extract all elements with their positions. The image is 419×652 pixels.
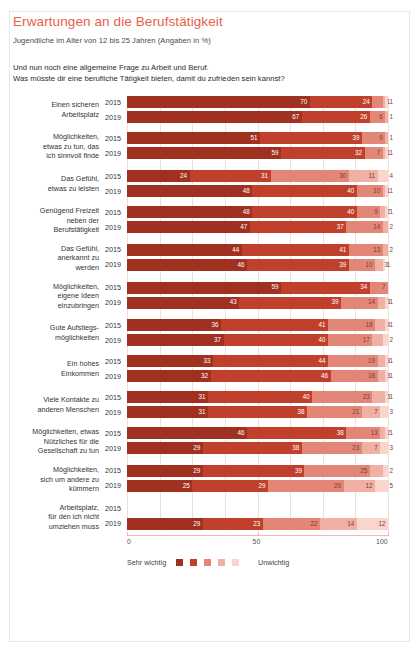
category-label-line: möglichkeiten	[13, 333, 99, 343]
bar-segment: 46	[127, 427, 247, 439]
bar-segment: 10	[357, 185, 383, 197]
bar-value-label: 30	[339, 173, 349, 179]
bar-segment: 31	[190, 170, 271, 182]
bar-value-label: 39	[295, 468, 305, 474]
bar-value-label: 40	[303, 394, 313, 400]
category-label: Möglichkeiten,eigene Ideeneinzubringen	[13, 282, 105, 311]
category-label-line: anerkannt zu	[13, 253, 99, 263]
bar-value-label: 39	[352, 135, 362, 141]
bar-segment: 40	[252, 185, 356, 197]
bar-segment: 33	[127, 355, 213, 367]
bar-row: 201536411841	[105, 319, 388, 331]
bar-segment: 40	[224, 334, 328, 346]
bar-value-label: 19	[368, 358, 378, 364]
bar-row: 201931382173	[105, 406, 388, 418]
series-year-label: 2015	[105, 172, 127, 181]
bar-rows: 201570244112019672661	[105, 96, 388, 123]
bar-value-label: 17	[363, 337, 373, 343]
category-label-line: Einkommen	[13, 369, 99, 379]
axis-tick-label: 100	[376, 538, 388, 545]
series-year-label: 2019	[105, 187, 127, 196]
stacked-bar: 252929125	[127, 480, 388, 492]
bar-row: 2019672661	[105, 111, 388, 123]
bar-segment: 1	[385, 391, 388, 403]
bar-group: Gute Aufstiegs-möglichkeiten201536411841…	[13, 319, 388, 346]
bar-segment: 40	[252, 206, 356, 218]
series-year-label: 2015	[105, 283, 127, 292]
bar-value-label: 59	[271, 150, 281, 156]
bar-value-label: 5	[388, 483, 393, 489]
bar-segment: 36	[127, 319, 221, 331]
stacked-bar: 48401011	[127, 185, 388, 197]
stacked-bar: 2923221412	[127, 518, 388, 530]
bar-value-label: 51	[251, 135, 261, 141]
bar-segment: 29	[268, 480, 344, 492]
bar-group: Möglichkeiten,sich um andere zukümmern20…	[13, 465, 388, 494]
stacked-bar: 5932711	[127, 147, 388, 159]
bar-segment: 3	[380, 442, 388, 454]
bar-segment: 17	[328, 334, 372, 346]
bar-value-label: 3	[388, 409, 393, 415]
bar-segment: 4	[372, 96, 382, 108]
bar-row: 20157024411	[105, 96, 388, 108]
bar-value-label: 38	[298, 409, 308, 415]
category-label-line: für den ich nicht	[13, 512, 99, 522]
stacked-bar: 31382173	[127, 406, 388, 418]
series-year-label: 2019	[105, 519, 127, 528]
bar-value-label: 31	[198, 409, 208, 415]
stacked-bar: 37401742	[127, 334, 388, 346]
bar-value-label: 36	[211, 322, 221, 328]
bar-segment: 51	[127, 132, 260, 144]
bar-value-label: 46	[321, 373, 331, 379]
stacked-bar: 59347	[127, 282, 388, 294]
bar-segment: 21	[307, 406, 362, 418]
legend-swatch	[218, 559, 225, 566]
bar-row: 201932461831	[105, 370, 388, 382]
bar-rows: 201536411841201937401742	[105, 319, 388, 346]
bar-segment: 2	[383, 334, 388, 346]
bar-value-label: 10	[373, 188, 383, 194]
bar-row: 2015	[105, 503, 388, 515]
bar-segment: 48	[127, 185, 252, 197]
bar-segment: 70	[127, 96, 310, 108]
bar-value-label: 1	[388, 188, 393, 194]
bar-rows: 201559347201943391431	[105, 282, 388, 311]
bar-rows: 201520192923221412	[105, 503, 388, 532]
bar-value-label: 1	[388, 114, 393, 120]
bar-segment: 1	[385, 96, 388, 108]
bar-value-label: 33	[204, 358, 214, 364]
bar-rows: 20154441132201946391031	[105, 244, 388, 273]
bar-value-label: 14	[373, 224, 383, 230]
bar-segment: 34	[281, 282, 370, 294]
bar-segment: 13	[349, 244, 383, 256]
bar-segment: 23	[302, 442, 362, 454]
chart-legend: Sehr wichtigUnwichtig	[13, 557, 388, 569]
series-year-label: 2019	[105, 298, 127, 307]
category-label: Einen sicherenArbeitsplatz	[13, 96, 105, 123]
bar-value-label: 47	[240, 224, 250, 230]
stacked-bar: 243130114	[127, 170, 388, 182]
bar-value-label: 40	[318, 337, 328, 343]
category-label: Das Gefühl,etwas zu leisten	[13, 170, 105, 197]
stacked-bar: 46381321	[127, 427, 388, 439]
category-label-line: Arbeitsplatz	[13, 110, 99, 120]
bar-groups: Einen sicherenArbeitsplatz20157024411201…	[13, 96, 388, 531]
bar-segment: 3	[378, 370, 386, 382]
bar-group: Genügend Freizeitneben derBerufstätigkei…	[13, 206, 388, 235]
bar-value-label: 14	[368, 299, 378, 305]
bar-value-label: 2	[388, 468, 393, 474]
bar-group: Das Gefühl,anerkannt zuwerden20154441132…	[13, 244, 388, 273]
bar-value-label: 39	[331, 299, 341, 305]
category-label-line: Viele Kontakte zu	[13, 395, 99, 405]
bar-value-label: 41	[339, 247, 349, 253]
bar-value-label: 1	[385, 262, 390, 268]
series-year-label: 2019	[105, 444, 127, 453]
category-label: Das Gefühl,anerkannt zuwerden	[13, 244, 105, 273]
stacked-bar: 33441931	[127, 355, 388, 367]
legend-right-label: Unwichtig	[258, 558, 289, 567]
series-year-label: 2015	[105, 466, 127, 475]
series-year-label: 2019	[105, 223, 127, 232]
series-year-label: 2015	[105, 134, 127, 143]
bar-segment: 14	[346, 221, 383, 233]
bar-value-label: 59	[271, 284, 281, 290]
